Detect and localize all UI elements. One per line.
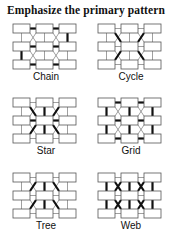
node-box bbox=[144, 60, 161, 69]
node-box bbox=[13, 173, 30, 182]
node-box bbox=[121, 173, 138, 182]
node-box bbox=[59, 173, 76, 182]
node-box bbox=[36, 191, 53, 200]
node-box bbox=[98, 209, 115, 218]
node-box bbox=[144, 98, 161, 107]
node-box bbox=[13, 134, 30, 143]
panel-grid: Grid bbox=[95, 96, 167, 156]
node-box bbox=[121, 209, 138, 218]
panel-label: Tree bbox=[10, 220, 82, 231]
node-box bbox=[13, 98, 30, 107]
node-box bbox=[144, 134, 161, 143]
node-box bbox=[121, 60, 138, 69]
chain-pattern-diagram bbox=[10, 22, 82, 70]
panel-label: Web bbox=[95, 220, 167, 231]
node-box bbox=[98, 134, 115, 143]
node-box bbox=[144, 173, 161, 182]
panel-label: Cycle bbox=[95, 71, 167, 82]
node-box bbox=[121, 191, 138, 200]
panel-star: Star bbox=[10, 96, 82, 156]
node-box bbox=[13, 42, 30, 51]
panel-web: Web bbox=[95, 171, 167, 231]
node-box bbox=[98, 60, 115, 69]
node-box bbox=[59, 209, 76, 218]
node-box bbox=[59, 60, 76, 69]
node-box bbox=[36, 116, 53, 125]
node-box bbox=[98, 24, 115, 33]
node-box bbox=[121, 98, 138, 107]
node-box bbox=[36, 134, 53, 143]
node-box bbox=[121, 134, 138, 143]
node-box bbox=[98, 173, 115, 182]
node-box bbox=[98, 116, 115, 125]
node-box bbox=[13, 60, 30, 69]
panel-cycle: Cycle bbox=[95, 22, 167, 82]
node-box bbox=[144, 24, 161, 33]
node-box bbox=[59, 98, 76, 107]
node-box bbox=[36, 24, 53, 33]
node-box bbox=[13, 116, 30, 125]
node-box bbox=[144, 191, 161, 200]
panel-label: Star bbox=[10, 145, 82, 156]
node-box bbox=[36, 98, 53, 107]
node-box bbox=[36, 60, 53, 69]
node-box bbox=[144, 116, 161, 125]
node-box bbox=[36, 42, 53, 51]
panel-label: Grid bbox=[95, 145, 167, 156]
tree-pattern-diagram bbox=[10, 171, 82, 219]
node-box bbox=[59, 42, 76, 51]
node-box bbox=[98, 191, 115, 200]
node-box bbox=[121, 24, 138, 33]
node-box bbox=[13, 191, 30, 200]
node-box bbox=[59, 24, 76, 33]
cycle-pattern-diagram bbox=[95, 22, 167, 70]
panel-chain: Chain bbox=[10, 22, 82, 82]
web-pattern-diagram bbox=[95, 171, 167, 219]
node-box bbox=[121, 42, 138, 51]
star-pattern-diagram bbox=[10, 96, 82, 144]
node-box bbox=[13, 24, 30, 33]
node-box bbox=[59, 116, 76, 125]
node-box bbox=[13, 209, 30, 218]
node-box bbox=[98, 98, 115, 107]
page-title: Emphasize the primary pattern bbox=[0, 4, 172, 16]
node-box bbox=[98, 42, 115, 51]
node-box bbox=[36, 173, 53, 182]
node-box bbox=[59, 191, 76, 200]
node-box bbox=[144, 42, 161, 51]
panel-tree: Tree bbox=[10, 171, 82, 231]
panel-label: Chain bbox=[10, 71, 82, 82]
node-box bbox=[121, 116, 138, 125]
grid-pattern-diagram bbox=[95, 96, 167, 144]
node-box bbox=[36, 209, 53, 218]
node-box bbox=[59, 134, 76, 143]
node-box bbox=[144, 209, 161, 218]
